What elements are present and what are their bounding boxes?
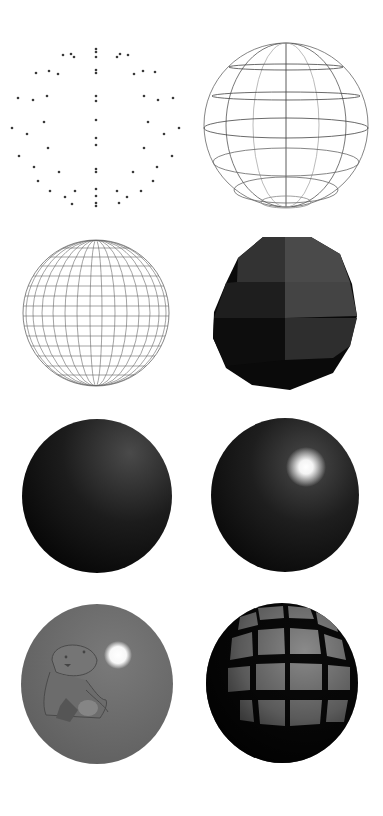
sparse-wireframe-graphic	[195, 35, 383, 215]
grid-textured-graphic	[195, 595, 383, 775]
sparse-wireframe-sphere	[195, 35, 383, 215]
specular-shaded-graphic	[195, 405, 383, 590]
point-cloud-graphic	[0, 40, 192, 215]
dense-wireframe-graphic	[0, 225, 192, 400]
specular-shaded-sphere	[195, 405, 383, 590]
smooth-shaded-graphic	[0, 405, 192, 590]
dense-wireframe-sphere	[0, 225, 192, 400]
specular-highlight	[286, 447, 326, 487]
flat-shaded-graphic	[195, 225, 383, 400]
smooth-shaded-sphere	[0, 405, 192, 590]
image-textured-sphere	[0, 595, 192, 775]
image-textured-graphic	[0, 595, 192, 775]
specular-highlight	[104, 641, 132, 669]
flat-shaded-sphere	[195, 225, 383, 400]
grid-textured-sphere	[195, 595, 383, 775]
point-cloud-sphere	[0, 40, 192, 215]
